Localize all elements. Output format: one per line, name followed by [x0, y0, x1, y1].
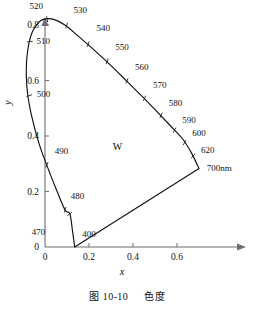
- white-point-label: W: [113, 141, 123, 152]
- wavelength-label-490: 490: [55, 146, 69, 156]
- wavelength-label-570: 570: [153, 80, 167, 90]
- wavelength-label-400: 400: [82, 229, 96, 239]
- wavelength-label-600: 600: [192, 128, 206, 138]
- wavelength-label-480: 480: [71, 191, 85, 201]
- y-axis-label: y: [2, 100, 13, 106]
- y-tick-label: 0.2: [27, 187, 39, 197]
- y-tick-label: 0.6: [27, 76, 39, 86]
- caption-number: 10-10: [103, 291, 128, 302]
- plot-labels: xyW: [2, 100, 125, 277]
- axes: 00.20.40.600.20.40.60.8: [27, 17, 246, 262]
- spectral-locus-curve: [26, 19, 199, 247]
- wavelength-label-560: 560: [135, 62, 149, 72]
- wavelength-label-590: 590: [182, 115, 196, 125]
- caption-prefix: 图: [89, 291, 99, 302]
- caption-title: 色度: [144, 291, 165, 302]
- wavelength-label-620: 620: [201, 145, 215, 155]
- wavelength-label-500: 500: [37, 89, 51, 99]
- wavelength-markers: 4004704804905005105205305405505605705805…: [26, 1, 231, 239]
- chromaticity-diagram: 00.20.40.600.20.40.60.8 4004704804905005…: [0, 0, 254, 312]
- wavelength-label-530: 530: [73, 5, 87, 15]
- x-axis-arrow: [237, 243, 246, 250]
- x-tick-label: 0.2: [83, 252, 95, 262]
- wavelength-label-540: 540: [97, 23, 111, 33]
- wavelength-label-520: 520: [30, 1, 44, 11]
- spectral-locus: [26, 19, 199, 247]
- wavelength-label-580: 580: [169, 98, 183, 108]
- y-tick-label: 0: [34, 242, 39, 252]
- wavelength-tick: [27, 41, 33, 42]
- x-tick-label: 0.4: [127, 252, 139, 262]
- chromaticity-figure: 00.20.40.600.20.40.60.8 4004704804905005…: [0, 0, 254, 312]
- x-tick-label: 0: [43, 252, 48, 262]
- x-axis-label: x: [119, 266, 125, 277]
- wavelength-label-510: 510: [36, 36, 50, 46]
- wavelength-label-550: 550: [115, 42, 129, 52]
- x-tick-label: 0.6: [171, 252, 183, 262]
- wavelength-label-700nm: 700nm: [207, 163, 232, 173]
- y-tick-label: 0.8: [27, 20, 39, 30]
- wavelength-label-470: 470: [32, 227, 46, 237]
- wavelength-tick: [47, 16, 48, 22]
- figure-caption: 图 10-10 色度: [0, 288, 254, 303]
